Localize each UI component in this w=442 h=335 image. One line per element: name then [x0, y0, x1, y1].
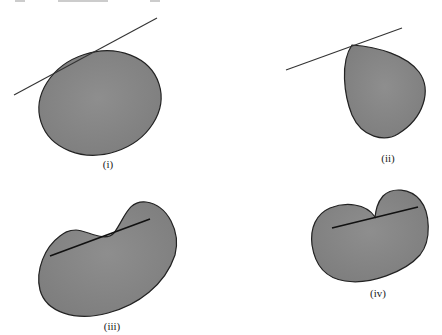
ellipse-region [25, 35, 174, 170]
panel-i: (i) [14, 18, 175, 171]
kidney-region [39, 202, 177, 316]
heart-like-region [312, 190, 429, 282]
panel-label-ii: (ii) [381, 152, 395, 165]
panel-label-iii: (iii) [104, 320, 121, 333]
panel-label-i: (i) [103, 158, 114, 171]
panel-iii: (iii) [39, 202, 177, 333]
panel-iv: (iv) [312, 190, 429, 300]
panel-label-iv: (iv) [370, 287, 386, 300]
teardrop-region [344, 45, 425, 138]
convexity-diagram: (i) (ii) (iii) (iv) [0, 0, 442, 335]
panel-ii: (ii) [286, 28, 425, 165]
